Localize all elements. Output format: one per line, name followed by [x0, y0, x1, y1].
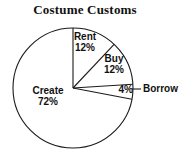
- slice-label-rent-name: Rent: [74, 31, 96, 42]
- pie-chart-graphic: [0, 0, 188, 158]
- slice-label-create-name: Create: [32, 85, 63, 96]
- slice-label-borrow-percent: 4%: [119, 84, 133, 95]
- pie-chart-figure: Costume Customs Rent 12% Buy 12% 4% Borr…: [0, 0, 188, 158]
- slice-label-create: Create 72%: [24, 85, 72, 107]
- slice-label-borrow-percent-wrap: 4%: [113, 84, 133, 95]
- slice-label-buy-percent: 12%: [100, 64, 128, 75]
- slice-label-buy-name: Buy: [105, 53, 124, 64]
- slice-label-create-percent: 72%: [24, 96, 72, 107]
- slice-label-buy: Buy 12%: [100, 53, 128, 75]
- slice-label-borrow-name: Borrow: [143, 83, 178, 94]
- slice-label-borrow-name-wrap: Borrow: [143, 83, 187, 94]
- slice-label-rent: Rent 12%: [70, 31, 100, 53]
- slice-label-rent-percent: 12%: [70, 42, 100, 53]
